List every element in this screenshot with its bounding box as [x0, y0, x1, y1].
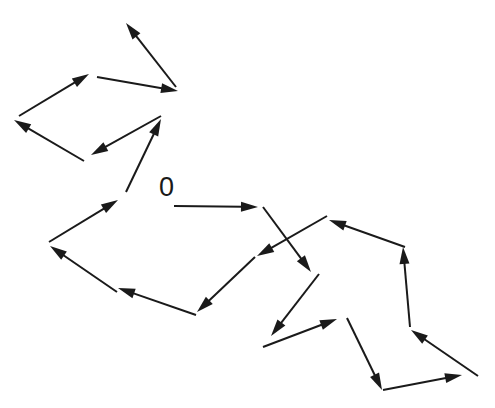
arrow-14	[49, 200, 118, 242]
arrowhead-icon	[297, 255, 311, 272]
arrow-5	[347, 318, 382, 390]
arrow-chain	[14, 23, 478, 390]
arrowhead-icon	[14, 120, 31, 133]
origin-label: 0	[159, 174, 174, 201]
arrow-shaft	[62, 254, 117, 292]
arrow-shaft	[270, 216, 327, 249]
arrowhead-icon	[411, 330, 428, 344]
arrow-13	[50, 246, 117, 292]
arrow-shaft	[97, 77, 163, 88]
arrow-8	[400, 247, 410, 327]
arrow-shaft	[49, 208, 105, 242]
arrow-16	[91, 116, 161, 155]
arrow-1	[174, 202, 258, 212]
arrow-3	[271, 274, 319, 336]
arrowhead-icon	[241, 202, 258, 212]
arrow-shaft	[19, 82, 76, 116]
arrowhead-icon	[370, 373, 382, 390]
arrow-6	[383, 373, 462, 390]
arrowhead-icon	[50, 246, 67, 260]
arrowhead-icon	[257, 243, 274, 256]
arrowhead-icon	[400, 247, 410, 264]
arrow-shaft	[280, 274, 319, 324]
arrow-shaft	[263, 324, 323, 347]
arrowhead-icon	[126, 23, 140, 39]
arrow-shaft	[383, 378, 447, 390]
arrow-18	[19, 74, 89, 116]
arrow-12	[118, 288, 196, 315]
arrow-20	[126, 23, 176, 87]
arrowhead-icon	[271, 319, 285, 336]
arrow-shaft	[135, 35, 176, 87]
arrow-10	[257, 216, 327, 256]
arrowhead-icon	[329, 220, 347, 230]
arrowhead-icon	[319, 319, 337, 330]
arrowhead-icon	[118, 288, 136, 298]
arrow-shaft	[27, 128, 84, 161]
arrow-7	[411, 330, 478, 376]
arrow-19	[97, 77, 178, 93]
arrow-shaft	[132, 293, 196, 315]
arrow-17	[14, 120, 84, 161]
arrow-shaft	[126, 133, 155, 192]
arrow-shaft	[423, 338, 478, 376]
arrow-15	[126, 119, 161, 192]
arrow-shaft	[208, 257, 255, 302]
arrow-shaft	[347, 318, 375, 377]
arrow-path-diagram	[0, 0, 495, 408]
arrowhead-icon	[91, 142, 108, 155]
arrowhead-icon	[101, 200, 118, 213]
arrowhead-icon	[72, 74, 89, 87]
arrowhead-icon	[444, 373, 462, 383]
arrow-shaft	[174, 206, 243, 207]
arrow-shaft	[343, 225, 405, 247]
arrow-9	[329, 220, 405, 247]
arrow-shaft	[404, 262, 410, 327]
arrow-11	[197, 257, 255, 312]
